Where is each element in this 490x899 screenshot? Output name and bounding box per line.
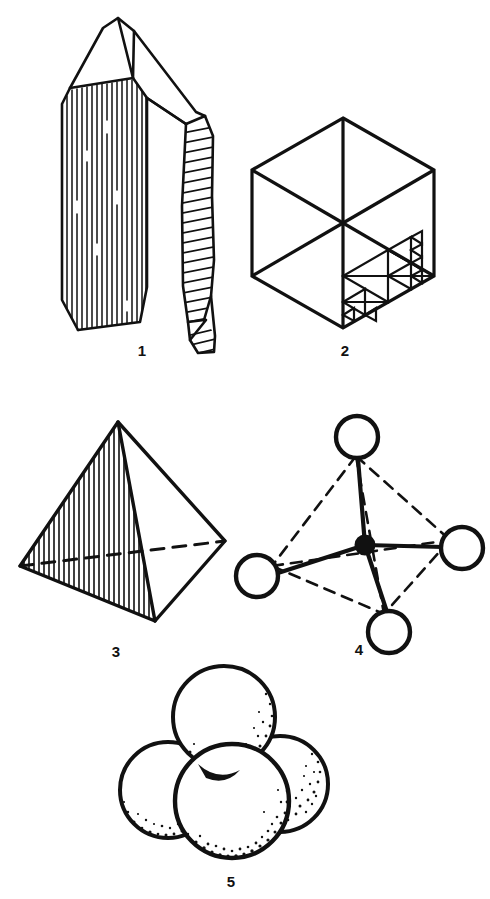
- figure-plate-artwork: [0, 0, 490, 899]
- cube-edge-to-upper-right: [343, 170, 434, 223]
- crystal-vertical-striations: [67, 80, 146, 332]
- tetrahedron-hidden-edge: [20, 541, 225, 566]
- atom-left: [236, 555, 278, 597]
- crystal-apex-right-facet: [133, 78, 186, 124]
- crystal-right-face-inner-edge: [186, 116, 205, 124]
- figure-plate: 1 2 3 4 5: [0, 0, 490, 899]
- figure-1-quartz-crystal: [62, 18, 220, 356]
- crystal-middle-top-edge: [147, 98, 186, 124]
- figure-5-space-filling-model: [120, 666, 328, 858]
- figure-caption-3: 3: [96, 644, 136, 659]
- atom-top: [336, 416, 378, 458]
- figure-4-ball-and-stick: [236, 416, 483, 653]
- bond-to-right-atom: [365, 545, 443, 547]
- figure-2-hexagonal-cube: [252, 118, 434, 328]
- crystal-apex-ridge: [133, 31, 134, 78]
- crystal-left-face-outline: [62, 88, 78, 330]
- bond-to-bottom-atom: [365, 545, 387, 612]
- figure-caption-1: 1: [122, 343, 162, 358]
- bond-to-left-atom: [278, 545, 365, 573]
- figure-caption-2: 2: [325, 343, 365, 358]
- model-bonds: [278, 459, 443, 612]
- atom-center: [356, 536, 375, 555]
- cube-edge-to-lower-left: [252, 223, 343, 276]
- figure-caption-5: 5: [211, 874, 251, 889]
- figure-3-tetrahedron: [20, 400, 225, 640]
- fractal-subdivision: [343, 231, 434, 321]
- cube-edge-to-upper-left: [252, 170, 343, 223]
- atom-right: [441, 527, 483, 569]
- sphere-front: [175, 744, 289, 858]
- figure-caption-4: 4: [339, 642, 379, 657]
